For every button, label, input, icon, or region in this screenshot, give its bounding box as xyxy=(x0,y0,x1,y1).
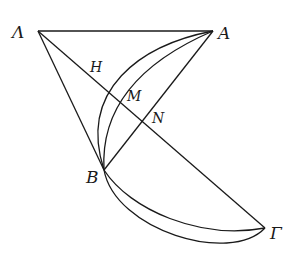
label-m: M xyxy=(126,88,142,104)
geometry-diagram: Λ A B Γ H M N xyxy=(0,0,295,264)
segment-lambda-b xyxy=(38,31,104,170)
label-a: A xyxy=(216,23,230,43)
arc-outer-a-b xyxy=(98,31,213,170)
label-lambda: Λ xyxy=(10,22,24,42)
label-h: H xyxy=(89,59,103,75)
label-b: B xyxy=(85,167,99,187)
arc-upper-b-gamma xyxy=(104,170,265,231)
label-gamma: Γ xyxy=(269,223,283,243)
segment-lambda-gamma xyxy=(38,31,265,228)
label-n: N xyxy=(151,110,165,126)
segment-a-b xyxy=(104,31,213,170)
